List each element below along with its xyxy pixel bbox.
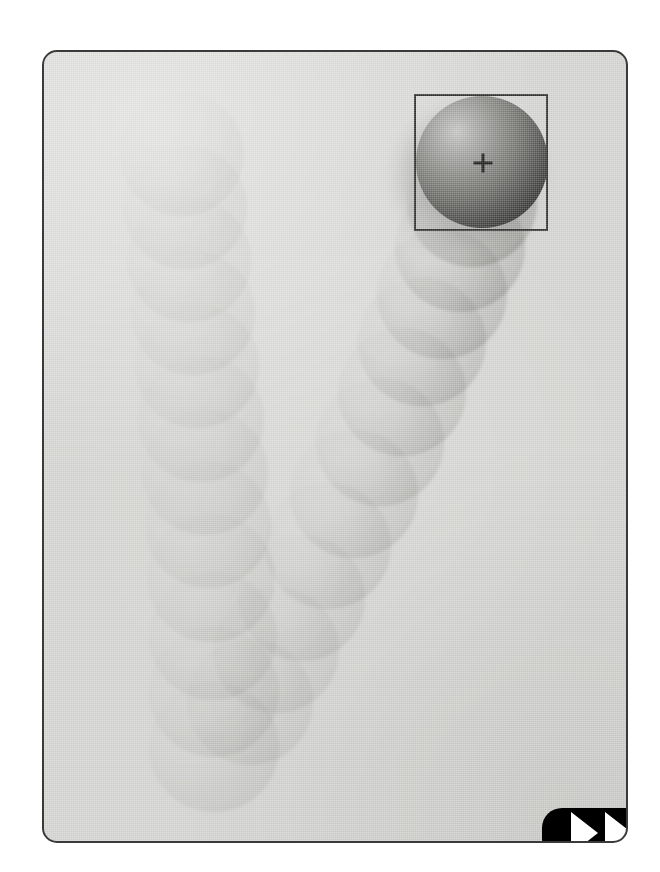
fast-forward-button[interactable] <box>542 808 628 843</box>
screenshot-root <box>0 0 660 872</box>
centroid-crosshair <box>474 154 493 173</box>
video-playback-frame <box>42 50 628 843</box>
crosshair-vertical-bar <box>482 154 485 173</box>
fast-forward-icon-second <box>605 812 629 843</box>
fast-forward-icon <box>571 812 598 843</box>
